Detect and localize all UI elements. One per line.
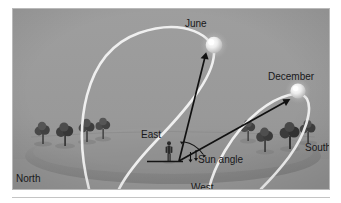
label-west: West: [191, 182, 214, 190]
label-sun-angle: Sun angle: [198, 154, 243, 165]
label-south: South: [305, 142, 330, 153]
sun-path-diagram: June December East Sun angle North West …: [12, 8, 330, 190]
label-north: North: [16, 173, 40, 184]
label-december: December: [268, 71, 314, 82]
label-june: June: [185, 18, 207, 29]
label-east: East: [141, 129, 161, 140]
caption-separator-rule: [12, 197, 330, 198]
scene-vignette: [13, 9, 329, 189]
scene-canvas: [13, 9, 329, 189]
figure-page: June December East Sun angle North West …: [0, 0, 341, 203]
